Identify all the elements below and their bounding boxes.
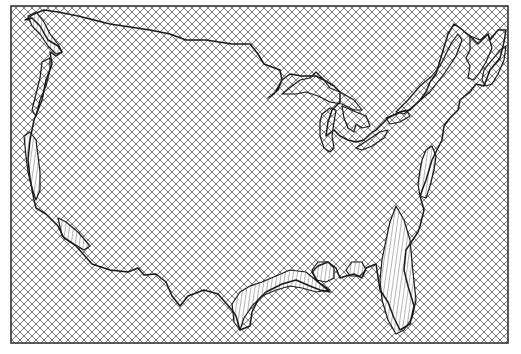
us-map bbox=[0, 0, 521, 354]
map-figure bbox=[0, 0, 521, 354]
